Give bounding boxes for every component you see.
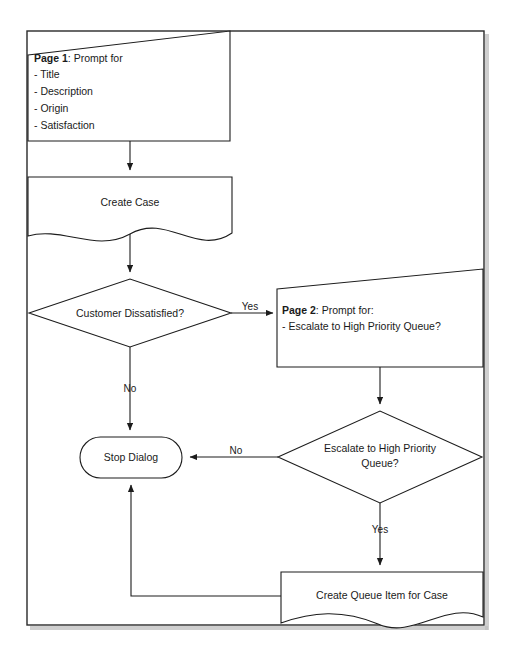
node-page1-line-2: - Description — [34, 85, 93, 97]
node-escalate-decision-label-line1: Escalate to High Priority — [324, 442, 437, 454]
node-page2-lead: Page 2 — [282, 304, 316, 316]
node-escalate-decision-label-line2: Queue? — [361, 457, 399, 469]
flowchart-canvas: Page 1: Prompt for - Title - Description… — [0, 0, 511, 654]
flowchart-svg: Page 1: Prompt for - Title - Description… — [0, 0, 511, 654]
node-create-queue-item-label: Create Queue Item for Case — [316, 589, 448, 601]
node-page1-lead-suffix: : Prompt for — [68, 52, 123, 64]
edge-label-escalate-no: No — [230, 445, 243, 456]
node-create-case-label: Create Case — [101, 196, 160, 208]
node-page1-headline: Page 1: Prompt for — [34, 52, 123, 64]
node-page2-line-1: - Escalate to High Priority Queue? — [282, 320, 441, 332]
edge-label-escalate-yes: Yes — [372, 524, 388, 535]
edge-label-dissatisfied-no: No — [124, 383, 137, 394]
node-page1-line-1: - Title — [34, 68, 60, 80]
node-stop-dialog-label: Stop Dialog — [104, 451, 158, 463]
node-page1-lead: Page 1 — [34, 52, 68, 64]
node-page2-lead-suffix: : Prompt for: — [316, 304, 374, 316]
frame-shadow-bottom — [30, 626, 488, 630]
node-create-case-shape — [28, 177, 232, 241]
node-customer-dissatisfied-label: Customer Dissatisfied? — [76, 307, 184, 319]
node-page1-line-4: - Satisfaction — [34, 119, 95, 131]
edge-label-dissatisfied-yes: Yes — [242, 301, 258, 312]
node-page1-line-3: - Origin — [34, 102, 69, 114]
node-page2-headline: Page 2: Prompt for: — [282, 304, 374, 316]
frame-shadow-right — [485, 34, 489, 630]
